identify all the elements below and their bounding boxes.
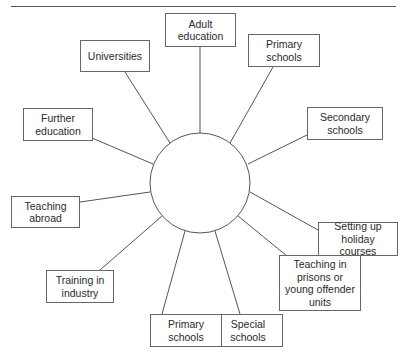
- connector-secondary-schools: [248, 135, 307, 164]
- node-training-in-industry: Training in industry: [46, 270, 114, 303]
- node-secondary-schools: Secondary schools: [307, 107, 383, 140]
- connector-universities: [125, 72, 170, 143]
- node-primary-schools-bottom: Primary schools: [150, 314, 222, 347]
- node-setting-up-holiday-courses: Setting up holiday courses: [318, 222, 398, 256]
- node-teaching-abroad: Teaching abroad: [11, 196, 80, 228]
- node-further-education: Further education: [23, 108, 93, 141]
- connector-primary-schools-top: [230, 67, 273, 143]
- connector-further-education: [92, 138, 153, 164]
- connector-special-schools: [215, 231, 240, 314]
- center-circle: [150, 133, 250, 233]
- node-primary-schools-top: Primary schools: [248, 34, 320, 67]
- connector-training-in-industry: [100, 216, 162, 270]
- node-adult-education: Adult education: [165, 13, 236, 47]
- connector-teaching-abroad: [80, 192, 150, 202]
- connector-teaching-in-prisons: [238, 216, 287, 256]
- connector-setting-up-holiday-courses: [250, 192, 318, 230]
- node-universities: Universities: [80, 40, 150, 72]
- node-teaching-in-prisons: Teaching in prisons or young offender un…: [279, 255, 361, 311]
- node-special-schools: Special schools: [213, 314, 283, 347]
- connector-primary-schools-bottom: [162, 231, 185, 314]
